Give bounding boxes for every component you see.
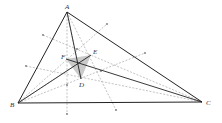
triangle-abc — [18, 12, 202, 103]
endpoint-dots — [25, 23, 146, 115]
segment-be — [18, 55, 91, 103]
segment-fc — [66, 59, 202, 102]
dashed-line-b2 — [18, 24, 107, 103]
geometry-figure: A B C D E F — [0, 0, 222, 123]
label-d: D — [78, 81, 84, 89]
construction-lines — [18, 12, 202, 114]
label-b: B — [10, 101, 15, 109]
label-a: A — [64, 3, 70, 11]
label-c: C — [206, 99, 211, 107]
label-f: F — [60, 53, 66, 61]
label-e: E — [92, 48, 98, 56]
solid-lines — [18, 12, 202, 103]
